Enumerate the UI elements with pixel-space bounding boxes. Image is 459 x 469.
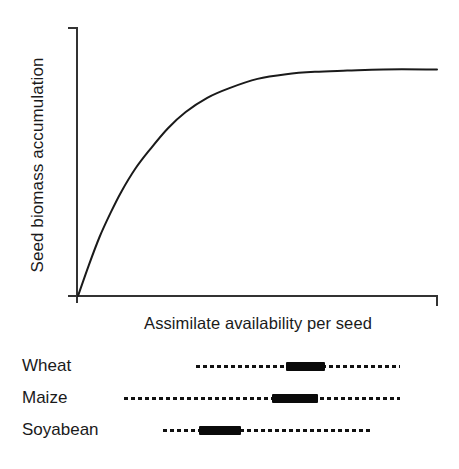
range-bar-soyabean <box>199 426 241 435</box>
x-axis-title: Assimilate availability per seed <box>77 314 439 333</box>
species-row-wheat: Wheat <box>0 355 459 387</box>
plot-area <box>0 0 459 312</box>
response-curve <box>78 69 437 296</box>
species-label-soyabean: Soyabean <box>22 419 99 441</box>
range-line-maize <box>124 397 400 400</box>
species-label-maize: Maize <box>22 387 67 409</box>
species-row-maize: Maize <box>0 387 459 419</box>
range-bar-wheat <box>286 362 325 371</box>
range-bar-maize <box>272 394 318 403</box>
species-row-soyabean: Soyabean <box>0 419 459 451</box>
species-range-panel: Wheat Maize Soyabean <box>0 355 459 469</box>
species-label-wheat: Wheat <box>22 355 71 377</box>
chart-panel: Seed biomass accumulation Assimilate ava… <box>0 0 459 312</box>
figure-seed-biomass-response: Seed biomass accumulation Assimilate ava… <box>0 0 459 469</box>
range-line-soyabean <box>163 429 370 432</box>
y-axis-line <box>68 28 77 303</box>
x-axis-line <box>68 296 437 306</box>
